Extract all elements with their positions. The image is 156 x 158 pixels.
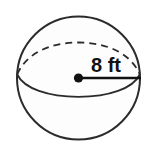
center-point bbox=[74, 73, 83, 82]
radius-label: 8 ft bbox=[91, 54, 121, 76]
sphere-diagram: 8 ft bbox=[0, 0, 156, 158]
sphere-figure: 8 ft bbox=[0, 0, 156, 158]
